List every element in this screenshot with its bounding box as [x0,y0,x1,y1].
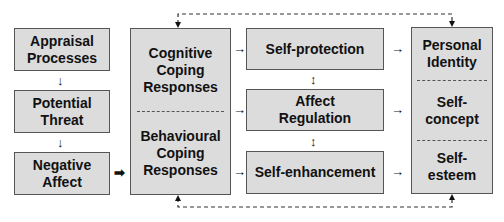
coping-model-diagram: Appraisal Processes ↓ Potential Threat ↓… [0,0,504,222]
feedback-loop-connectors [0,0,504,222]
